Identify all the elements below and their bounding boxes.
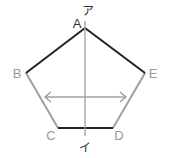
edge-a-b: [26, 28, 85, 73]
axis-top-label: ア: [82, 4, 94, 18]
edge-d-e: [113, 73, 145, 128]
vertex-label-c: C: [46, 128, 55, 143]
vertex-label-d: D: [114, 128, 123, 143]
edge-a-e: [85, 28, 145, 73]
vertex-label-b: B: [13, 66, 22, 81]
vertex-label-e: E: [149, 66, 158, 81]
pentagon-diagram: ア A B C D E イ: [0, 0, 169, 158]
vertex-label-a: A: [73, 16, 82, 31]
axis-bottom-label: イ: [79, 141, 91, 155]
edge-b-c: [26, 73, 58, 128]
